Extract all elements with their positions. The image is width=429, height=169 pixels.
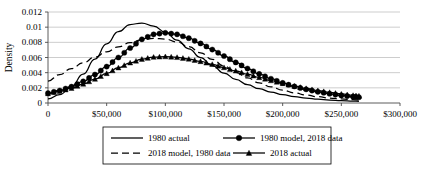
data-point-marker [133, 58, 138, 63]
data-point-marker [157, 31, 162, 36]
data-point-marker [151, 32, 156, 37]
data-point-marker [192, 38, 197, 43]
y-tick-label: 0.004 [22, 68, 43, 78]
y-tick-label: 0 [38, 98, 43, 108]
legend-label: 1980 model, 2018 data [260, 133, 343, 143]
data-point-marker [210, 47, 215, 52]
data-point-marker [128, 45, 133, 50]
density-chart: 00.0020.0040.0060.0080.010.012 0$50,000$… [0, 0, 429, 169]
x-tick-label: $300,000 [383, 109, 417, 119]
x-tick-label: $250,000 [324, 109, 358, 119]
x-tick-label: $100,000 [148, 109, 182, 119]
x-tick-labels-group: 0$50,000$100,000$150,000$200,000$250,000… [46, 109, 418, 119]
data-point-marker [98, 68, 103, 73]
data-point-marker [227, 57, 232, 62]
y-axis-title: Density [4, 42, 14, 72]
data-point-marker [198, 41, 203, 46]
y-tick-label: 0.002 [22, 83, 42, 93]
chart-canvas: 00.0020.0040.0060.0080.010.012 0$50,000$… [0, 0, 429, 169]
legend-label: 2018 model, 1980 data [148, 148, 231, 158]
series-group [45, 23, 361, 101]
data-point-marker [104, 64, 109, 69]
y-tick-label: 0.006 [22, 53, 43, 63]
series-2 [45, 30, 361, 100]
data-point-marker [110, 59, 115, 64]
data-point-marker [216, 50, 221, 55]
data-point-marker [204, 44, 209, 49]
legend-label: 2018 actual [270, 148, 312, 158]
x-tick-label: $150,000 [207, 109, 241, 119]
data-point-marker [122, 50, 127, 55]
data-point-marker [169, 31, 174, 36]
data-point-marker [133, 41, 138, 46]
data-point-marker [239, 63, 244, 68]
y-tick-label: 0.008 [22, 37, 43, 47]
data-point-marker [163, 30, 168, 35]
data-point-marker [221, 53, 226, 58]
legend-label: 1980 actual [148, 133, 190, 143]
axes-group [45, 12, 400, 106]
data-point-marker [180, 34, 185, 39]
x-tick-label: $50,000 [92, 109, 122, 119]
y-axis-title-group: Density [4, 42, 14, 72]
data-point-marker [186, 36, 191, 41]
data-point-marker [116, 55, 121, 60]
y-tick-label: 0.012 [22, 7, 42, 17]
data-point-marker [233, 60, 238, 65]
y-tick-labels-group: 00.0020.0040.0060.0080.010.012 [22, 7, 43, 108]
x-tick-label: 0 [46, 109, 51, 119]
legend-marker-circle-icon [236, 135, 242, 141]
data-point-marker [245, 66, 250, 71]
y-tick-label: 0.01 [26, 22, 42, 32]
legend-group: 1980 actual1980 model, 2018 data2018 mod… [103, 127, 343, 164]
x-tick-label: $200,000 [266, 109, 300, 119]
data-point-marker [174, 32, 179, 37]
